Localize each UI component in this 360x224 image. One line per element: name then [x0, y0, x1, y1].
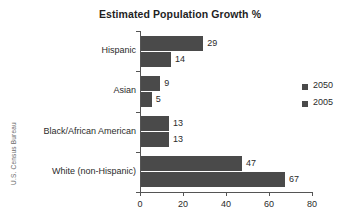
- chart-container: Estimated Population Growth % U.S. Censu…: [0, 0, 360, 224]
- category-label: Hispanic: [4, 45, 136, 55]
- bar: [141, 116, 169, 131]
- x-tick: [140, 192, 141, 196]
- category-label: Asian: [4, 85, 136, 95]
- legend-swatch-icon: [302, 84, 308, 90]
- y-tick: [136, 71, 140, 72]
- x-tick-label: 20: [178, 199, 188, 209]
- y-tick: [136, 112, 140, 113]
- legend-swatch-icon: [302, 101, 308, 107]
- bar-value-label: 5: [156, 94, 161, 104]
- plot-area: 020406080 HispanicAsianBlack/African Ame…: [140, 31, 312, 192]
- x-tick: [226, 192, 227, 196]
- x-tick-label: 0: [137, 199, 142, 209]
- x-tick-label: 80: [307, 199, 317, 209]
- x-tick-label: 60: [264, 199, 274, 209]
- category-label: White (non-Hispanic): [4, 166, 136, 176]
- x-tick: [269, 192, 270, 196]
- bar-value-label: 47: [246, 158, 256, 168]
- bar: [141, 132, 169, 147]
- bar: [141, 36, 203, 51]
- bar-value-label: 13: [173, 118, 183, 128]
- bar: [141, 172, 285, 187]
- legend-label: 2005: [313, 97, 333, 107]
- bar: [141, 52, 171, 67]
- x-tick: [312, 192, 313, 196]
- chart-title: Estimated Population Growth %: [60, 8, 300, 20]
- bar: [141, 76, 160, 91]
- bar-value-label: 13: [173, 134, 183, 144]
- category-label: Black/African American: [4, 126, 136, 136]
- bar: [141, 92, 152, 107]
- bar-value-label: 14: [175, 54, 185, 64]
- bar: [141, 156, 242, 171]
- legend-label: 2050: [313, 80, 333, 90]
- bar-value-label: 29: [207, 38, 217, 48]
- y-tick: [136, 31, 140, 32]
- bar-value-label: 67: [289, 174, 299, 184]
- y-tick: [136, 152, 140, 153]
- x-tick-label: 40: [221, 199, 231, 209]
- x-tick: [183, 192, 184, 196]
- bar-value-label: 9: [164, 78, 169, 88]
